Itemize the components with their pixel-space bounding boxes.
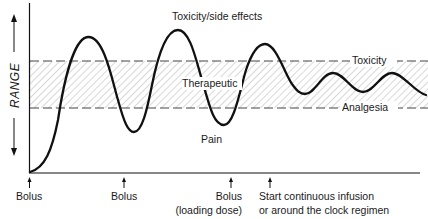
arrow-down-icon [11,148,17,156]
zone-label-pain: Pain [201,133,222,145]
event-label-bolus-3: Bolus [216,190,242,202]
event-marker-4 [268,177,272,188]
drug-concentration-range-diagram: RANGE Toxicity/side effects Therapeutic … [0,0,428,219]
event-marker-1 [28,177,32,188]
threshold-label-toxicity: Toxicity [352,54,387,66]
zone-label-therapeutic: Therapeutic [182,77,237,89]
event-marker-2 [122,177,126,188]
event-label-bolus-2: Bolus [111,190,137,202]
threshold-label-analgesia: Analgesia [342,101,388,113]
y-axis-label: RANGE [8,62,22,108]
arrow-up-icon [268,177,272,182]
event-sublabel-around-clock: or around the clock regimen [259,204,389,216]
event-marker-3 [229,177,233,188]
event-sublabel-loading-dose: (loading dose) [175,204,242,216]
event-label-bolus-1: Bolus [16,190,42,202]
y-axis-range-indicator: RANGE [8,14,22,156]
arrow-up-icon [122,177,126,182]
event-label-continuous-infusion: Start continuous infusion [259,190,374,202]
zone-label-toxicity-side-effects: Toxicity/side effects [172,10,262,22]
event-markers [28,177,273,188]
arrow-up-icon [11,14,17,22]
arrow-up-icon [229,177,233,182]
arrow-up-icon [28,177,32,182]
